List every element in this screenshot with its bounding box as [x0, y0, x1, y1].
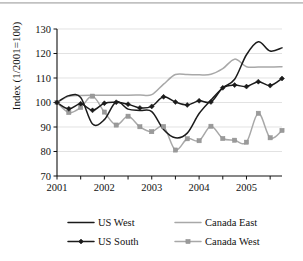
svg-text:2004: 2004 [189, 182, 211, 193]
line-chart: 708090100110120130 20012002200320042005 … [0, 0, 303, 261]
svg-text:2003: 2003 [141, 182, 162, 193]
y-axis-ticks: 708090100110120130 [35, 24, 57, 182]
chart-legend: US WestCanada EastUS SouthCanada West [68, 217, 260, 247]
svg-text:110: 110 [36, 73, 51, 84]
grid-lines [57, 29, 282, 152]
legend-label: US West [98, 217, 135, 228]
svg-text:2002: 2002 [94, 182, 115, 193]
svg-text:2005: 2005 [236, 182, 257, 193]
legend-label: Canada East [205, 217, 257, 228]
series-line [57, 42, 282, 138]
chart-figure: Index (1/2001=100) 708090100110120130 20… [0, 0, 303, 261]
legend-label: US South [98, 236, 139, 247]
svg-text:100: 100 [35, 97, 51, 108]
x-axis-ticks: 20012002200320042005 [47, 176, 271, 193]
svg-text:70: 70 [41, 171, 52, 182]
svg-text:2001: 2001 [47, 182, 68, 193]
svg-text:90: 90 [41, 122, 52, 133]
svg-text:120: 120 [35, 48, 51, 59]
svg-text:130: 130 [35, 24, 51, 35]
svg-text:80: 80 [41, 146, 52, 157]
legend-label: Canada West [205, 236, 260, 247]
